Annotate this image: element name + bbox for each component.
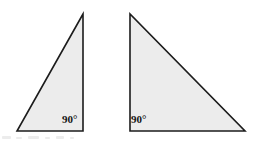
triangles-diagram — [0, 0, 255, 141]
right-triangle-right-angle-label: 90° — [131, 114, 146, 125]
scan-mark-4 — [45, 137, 50, 139]
scan-mark-1 — [2, 136, 11, 139]
scan-mark-5 — [56, 136, 64, 139]
scan-mark-3 — [28, 136, 39, 139]
figure-canvas: 90° 90° — [0, 0, 255, 141]
scan-mark-6 — [70, 137, 74, 139]
scan-mark-2 — [16, 137, 22, 139]
left-triangle-right-angle-label: 90° — [62, 114, 77, 125]
right-triangle — [130, 14, 245, 131]
